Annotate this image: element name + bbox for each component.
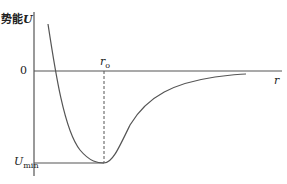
potential-curve <box>48 24 246 163</box>
diagram-canvas <box>0 0 287 184</box>
y-axis-label: 势能U <box>1 10 33 26</box>
zero-label: 0 <box>20 64 27 77</box>
r0-label: ro <box>100 55 110 70</box>
potential-energy-diagram: 势能U 0 r ro Umin <box>0 0 287 184</box>
x-axis-label: r <box>274 74 279 87</box>
umin-label: Umin <box>14 155 39 170</box>
